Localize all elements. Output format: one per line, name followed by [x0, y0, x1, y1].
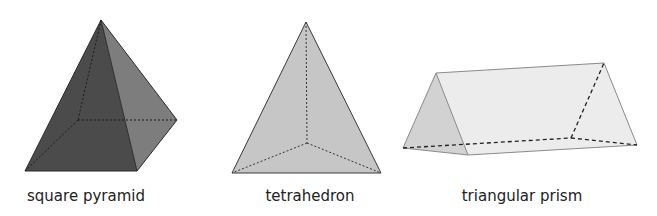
triangular-prism-figure: [403, 63, 637, 155]
tetrahedron-figure: [232, 22, 381, 173]
square-pyramid-label: square pyramid: [27, 187, 145, 205]
square-pyramid-figure: [25, 20, 177, 171]
triangular-prism-label: triangular prism: [462, 187, 583, 205]
solids-diagram: [0, 0, 657, 216]
tetrahedron-face: [232, 22, 381, 173]
tetrahedron-label: tetrahedron: [265, 187, 354, 205]
